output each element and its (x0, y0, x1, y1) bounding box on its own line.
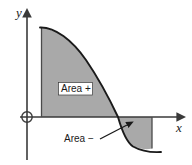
figure-container: Area + Area − y x (0, 0, 192, 165)
signed-area-diagram: Area + Area − y x (0, 0, 192, 165)
positive-area-region (42, 28, 119, 117)
area-positive-label: Area + (61, 83, 91, 94)
y-axis-label: y (14, 5, 22, 20)
x-axis-label: x (175, 120, 182, 135)
area-negative-label: Area − (64, 133, 94, 144)
